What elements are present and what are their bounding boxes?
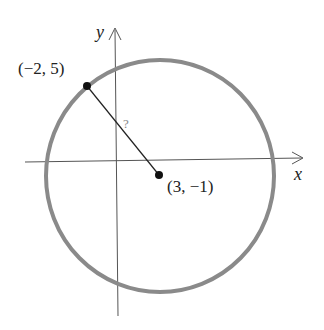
radius-question-label: ? xyxy=(123,116,129,131)
x-axis xyxy=(25,158,302,162)
circle-diagram: (−2, 5) (3, −1) ? y x xyxy=(0,0,324,330)
x-axis-label: x xyxy=(293,164,302,184)
center-point xyxy=(155,171,163,179)
y-axis-label: y xyxy=(94,22,104,42)
point-on-circle xyxy=(83,82,91,90)
center-label: (3, −1) xyxy=(167,177,213,196)
y-axis xyxy=(115,30,118,316)
point-label: (−2, 5) xyxy=(18,59,64,78)
